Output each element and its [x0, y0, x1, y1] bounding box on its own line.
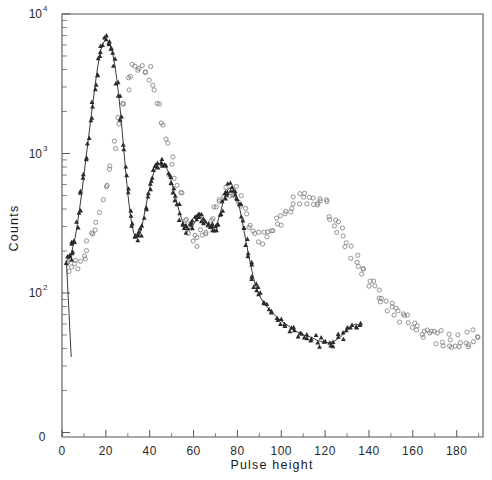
data-point-circle [101, 198, 105, 202]
data-point-circle [256, 240, 260, 244]
data-point-circle [439, 328, 443, 332]
data-point-circle [265, 235, 269, 239]
data-point-circle [76, 267, 80, 271]
data-point-circle [447, 332, 451, 336]
data-point-circle [114, 146, 118, 150]
data-point-triangle [314, 333, 319, 337]
data-point-circle [151, 83, 155, 87]
data-point-triangle [104, 33, 109, 37]
data-point-circle [94, 220, 98, 224]
data-point-circle [398, 320, 402, 324]
data-point-circle [191, 239, 195, 243]
data-point-circle [414, 328, 418, 332]
data-point-circle [283, 212, 287, 216]
data-point-circle [343, 245, 347, 249]
data-point-circle [82, 254, 86, 258]
data-point-circle [234, 184, 238, 188]
data-point-circle [384, 299, 388, 303]
data-point-triangle [160, 157, 165, 161]
data-point-triangle [341, 337, 346, 341]
data-point-circle [392, 313, 396, 317]
data-point-circle [195, 244, 199, 248]
data-point-circle [415, 324, 419, 328]
data-point-triangle [278, 322, 283, 326]
svg-text:10: 10 [29, 147, 43, 161]
fit-curve-path [66, 40, 360, 357]
data-point-circle [291, 195, 295, 199]
data-point-triangle [130, 221, 135, 225]
data-point-circle [278, 214, 282, 218]
data-point-circle [356, 264, 360, 268]
data-point-triangle [121, 142, 126, 146]
data-point-triangle [126, 190, 131, 194]
figure-container: 020406080100120140160180 1021031040 Puls… [0, 0, 492, 480]
data-point-circle [291, 202, 295, 206]
data-point-circle [332, 224, 336, 228]
x-tick-label: 40 [143, 444, 157, 458]
data-point-triangle [150, 175, 155, 179]
data-point-triangle [98, 50, 103, 54]
x-tick-label: 180 [446, 444, 468, 458]
x-tick-label: 60 [186, 444, 200, 458]
data-point-triangle [123, 164, 128, 168]
data-point-circle [340, 226, 344, 230]
y-axis-title: Counts [7, 205, 21, 252]
svg-text:10: 10 [29, 7, 43, 21]
data-point-circle [303, 191, 307, 195]
data-point-triangle [146, 191, 151, 195]
data-point-triangle [228, 180, 233, 184]
data-point-circle [448, 338, 452, 342]
data-point-circle [456, 333, 460, 337]
data-point-circle [373, 284, 377, 288]
data-point-circle [349, 244, 353, 248]
data-point-triangle [95, 73, 100, 77]
series-circles [65, 62, 480, 349]
x-axis: 020406080100120140160180 [58, 430, 478, 458]
data-point-circle [297, 202, 301, 206]
data-point-triangle [279, 317, 284, 321]
data-point-triangle [144, 205, 149, 209]
data-point-triangle [243, 242, 248, 246]
data-point-circle [127, 88, 131, 92]
data-point-circle [471, 328, 475, 332]
data-point-triangle [93, 87, 98, 91]
data-point-circle [341, 234, 345, 238]
data-point-triangle [90, 104, 95, 108]
data-point-circle [93, 228, 97, 232]
svg-text:2: 2 [43, 283, 48, 292]
data-point-triangle [94, 82, 99, 86]
data-point-circle [171, 155, 175, 159]
data-point-triangle [87, 136, 92, 140]
data-point-circle [198, 228, 202, 232]
x-tick-label: 80 [230, 444, 244, 458]
data-point-circle [224, 185, 228, 189]
data-point-circle [356, 253, 360, 257]
data-point-triangle [139, 223, 144, 227]
data-point-circle [367, 284, 371, 288]
data-point-circle [166, 141, 170, 145]
x-tick-label: 20 [99, 444, 113, 458]
data-point-triangle [124, 173, 129, 177]
data-point-circle [377, 288, 381, 292]
data-point-triangle [242, 225, 247, 229]
data-point-triangle [317, 344, 322, 348]
data-point-triangle [98, 53, 103, 57]
x-axis-title: Pulse height [230, 458, 313, 472]
x-tick-label: 160 [402, 444, 424, 458]
data-point-circle [97, 210, 101, 214]
x-tick-label: 120 [314, 444, 336, 458]
data-point-circle [149, 64, 153, 68]
data-point-circle [239, 193, 243, 197]
data-point-circle [471, 340, 475, 344]
data-point-triangle [304, 332, 309, 336]
fit-curve [66, 40, 360, 357]
data-point-triangle [319, 335, 324, 339]
data-point-circle [84, 249, 88, 253]
data-point-circle [349, 256, 353, 260]
data-point-circle [298, 192, 302, 196]
data-point-triangle [177, 218, 182, 222]
data-point-circle [335, 230, 339, 234]
data-point-circle [183, 218, 187, 222]
svg-text:3: 3 [43, 144, 48, 153]
y-tick-label: 103 [29, 144, 48, 161]
